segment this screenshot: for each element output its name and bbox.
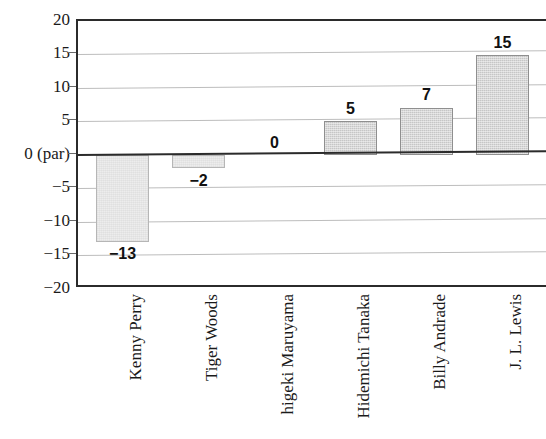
- x-label-tiger-woods: Tiger Woods: [203, 294, 220, 381]
- x-label-jl-lewis: J. L. Lewis: [507, 294, 524, 370]
- y-tick-label-neg15: −15: [43, 245, 70, 262]
- y-tick-mark-10: [68, 86, 76, 87]
- zero-line: [78, 150, 546, 156]
- value-label-shigeki-maruyama: 0: [248, 135, 301, 151]
- plot-area: −13 −2 0 5 7 15: [76, 19, 546, 287]
- value-label-tiger-woods: −2: [172, 173, 225, 189]
- y-tick-mark-neg15: [68, 253, 76, 254]
- y-tick-mark-15: [68, 52, 76, 53]
- y-tick-mark-neg10: [68, 220, 76, 221]
- y-tick-mark-5: [68, 119, 76, 120]
- x-label-shigeki-maruyama: higeki Maruyama: [279, 294, 296, 414]
- y-tick-mark-neg5: [68, 186, 76, 187]
- y-tick-label-0-par: 0 (par): [24, 145, 70, 162]
- x-axis-category-labels: Kenny Perry Tiger Woods higeki Maruyama …: [0, 290, 546, 439]
- golf-scores-bar-chart: 20 15 10 5 0 (par) −5 −10 −15 −20: [0, 0, 546, 439]
- value-label-kenny-perry: −13: [96, 246, 149, 262]
- y-tick-mark-0: [68, 153, 76, 154]
- y-tick-label-20: 20: [53, 11, 70, 28]
- x-label-kenny-perry: Kenny Perry: [127, 294, 144, 380]
- x-label-hidemichi-tanaka: Hidemichi Tanaka: [355, 294, 372, 419]
- value-label-billy-andrade: 7: [400, 87, 453, 103]
- value-label-jl-lewis: 15: [476, 35, 529, 51]
- y-tick-label-neg10: −10: [43, 212, 70, 229]
- x-label-billy-andrade: Billy Andrade: [431, 294, 448, 390]
- value-label-hidemichi-tanaka: 5: [324, 101, 377, 117]
